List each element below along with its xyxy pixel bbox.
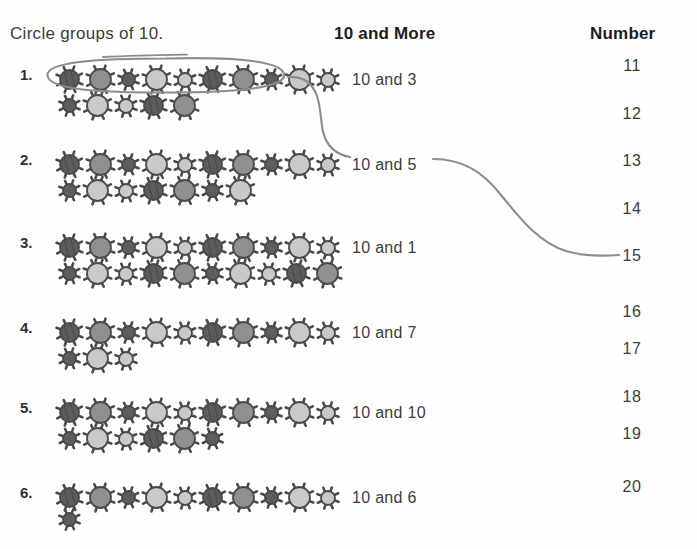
bug-counter: [58, 508, 81, 531]
bug-group: [58, 343, 139, 374]
bug-counter: [117, 153, 140, 176]
bug-counter: [284, 397, 315, 428]
oval-tail-stroke: [103, 55, 187, 57]
bug-counter: [169, 258, 200, 289]
bug-counter: [173, 401, 197, 425]
ten-and-more-value[interactable]: 10 and 3: [352, 71, 417, 89]
bug-counter: [82, 90, 113, 121]
ten-and-more-value[interactable]: 10 and 6: [352, 489, 417, 507]
bug-counter: [169, 175, 200, 206]
bug-group: [58, 175, 257, 206]
bug-group: [58, 508, 82, 531]
number-option[interactable]: 11: [612, 57, 652, 75]
bug-counter: [114, 262, 138, 286]
bug-counter: [260, 401, 283, 424]
bug-counter: [284, 317, 315, 348]
bug-counter: [114, 179, 138, 203]
bug-counter: [173, 153, 197, 177]
bug-counter: [114, 427, 138, 451]
bug-counter: [228, 64, 259, 95]
bug-counter: [114, 94, 138, 118]
bug-counter: [173, 236, 197, 260]
bug-group: [55, 482, 341, 513]
bug-counter: [201, 179, 224, 202]
bug-counter: [284, 64, 315, 95]
number-option[interactable]: 17: [612, 340, 652, 358]
bug-group: [58, 90, 201, 121]
bug-counter: [117, 68, 140, 91]
number-option[interactable]: 18: [612, 388, 652, 406]
bug-counter: [316, 321, 340, 345]
bug-counter: [316, 68, 340, 92]
bug-counter: [201, 427, 224, 450]
bug-counter: [82, 343, 113, 374]
number-option[interactable]: 16: [612, 303, 652, 321]
row-number-label: 1.: [20, 66, 33, 83]
bug-counter: [225, 175, 256, 206]
bug-counter: [282, 259, 311, 288]
ten-and-more-value[interactable]: 10 and 10: [352, 404, 426, 422]
bug-counter: [173, 321, 197, 345]
bug-counter: [316, 486, 340, 510]
bug-counter: [139, 176, 168, 205]
bug-group: [58, 258, 344, 289]
bug-counter: [169, 423, 200, 454]
bug-counter: [316, 153, 340, 177]
bug-counter: [139, 424, 168, 453]
bug-counter: [139, 259, 168, 288]
bug-counter: [173, 486, 197, 510]
number-option[interactable]: 20: [612, 478, 652, 496]
bug-counter: [198, 318, 227, 347]
column-header-number: Number: [590, 24, 655, 44]
bug-counter: [260, 486, 283, 509]
bug-counter: [284, 482, 315, 513]
bug-counter: [260, 68, 283, 91]
bug-counter: [228, 317, 259, 348]
number-option[interactable]: 12: [612, 105, 652, 123]
ten-and-more-value[interactable]: 10 and 5: [352, 156, 417, 174]
bug-counter: [228, 397, 259, 428]
bug-counter: [58, 94, 81, 117]
bug-counter: [82, 258, 113, 289]
bug-counter: [173, 68, 197, 92]
worksheet-page: Circle groups of 10. 10 and More Number …: [0, 0, 697, 549]
bug-counter: [257, 262, 281, 286]
page-instruction: Circle groups of 10.: [10, 24, 163, 44]
bug-counter: [58, 427, 81, 450]
row-number-label: 4.: [20, 319, 33, 336]
bug-counter: [141, 482, 172, 513]
number-option[interactable]: 14: [612, 200, 652, 218]
number-option[interactable]: 19: [612, 425, 652, 443]
number-option[interactable]: 13: [612, 152, 652, 170]
number-option[interactable]: 15: [612, 247, 652, 265]
bug-counter: [141, 317, 172, 348]
connector-10-and-5-to-15: [433, 159, 619, 256]
bug-counter: [284, 149, 315, 180]
bug-counter: [228, 482, 259, 513]
bug-counter: [117, 401, 140, 424]
row-number-label: 2.: [20, 151, 33, 168]
bug-counter: [316, 401, 340, 425]
bug-counter: [58, 179, 81, 202]
bug-counter: [260, 236, 283, 259]
bug-counter: [85, 482, 116, 513]
bug-counter: [225, 258, 256, 289]
bug-group: [58, 423, 225, 454]
ten-and-more-value[interactable]: 10 and 1: [352, 239, 417, 257]
bug-counter: [260, 153, 283, 176]
bug-counter: [260, 321, 283, 344]
bug-counter: [82, 423, 113, 454]
row-number-label: 6.: [20, 484, 33, 501]
bug-counter: [58, 347, 81, 370]
ten-and-more-value[interactable]: 10 and 7: [352, 324, 417, 342]
row-number-label: 3.: [20, 234, 33, 251]
bug-counter: [117, 236, 140, 259]
bug-counter: [117, 486, 140, 509]
bug-counter: [82, 175, 113, 206]
column-header-10-and-more: 10 and More: [334, 24, 435, 44]
bug-counter: [312, 258, 343, 289]
bug-counter: [316, 236, 340, 260]
bug-counter: [139, 91, 168, 120]
row-number-label: 5.: [20, 399, 33, 416]
bug-counter: [198, 65, 227, 94]
